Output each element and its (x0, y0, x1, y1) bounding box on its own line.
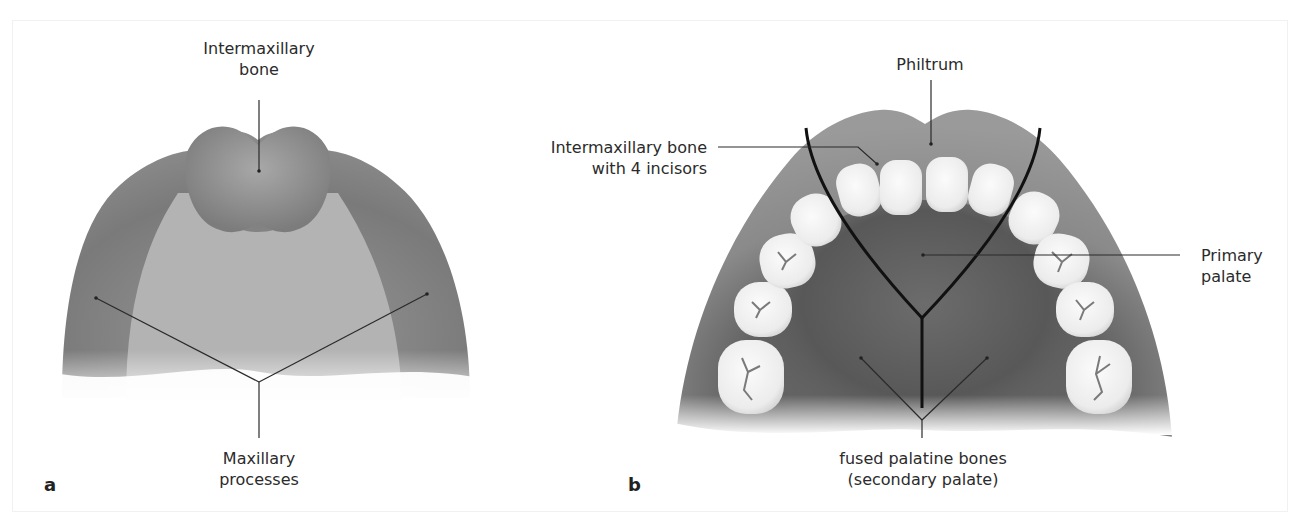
label-line: Maxillary (219, 448, 299, 469)
label-primary-palate: Primary palate (1201, 245, 1263, 287)
label-line: bone (203, 59, 314, 80)
label-line: with 4 incisors (530, 158, 707, 179)
label-intermaxillary-incisors: Intermaxillary bone with 4 incisors (530, 137, 707, 179)
panel-letter-b: b (628, 474, 641, 495)
label-philtrum: Philtrum (896, 54, 963, 75)
panel-letter-a: a (44, 474, 56, 495)
label-line: fused palatine bones (839, 448, 1006, 469)
anatomy-illustration (0, 0, 1307, 526)
label-maxillary-processes: Maxillary processes (219, 448, 299, 490)
label-line: (secondary palate) (839, 469, 1006, 490)
panel-a-illustration (40, 100, 500, 438)
label-line: Primary (1201, 245, 1263, 266)
label-fused-palatine-bones: fused palatine bones (secondary palate) (839, 448, 1006, 490)
label-line: Intermaxillary bone (530, 137, 707, 158)
label-line: Intermaxillary (203, 38, 314, 59)
label-line: palate (1201, 266, 1263, 287)
panel-b-illustration (660, 80, 1200, 470)
label-line: processes (219, 469, 299, 490)
label-intermaxillary-bone: Intermaxillary bone (203, 38, 314, 80)
